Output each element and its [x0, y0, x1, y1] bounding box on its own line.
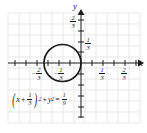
equation-inner-den: 3 — [27, 100, 32, 107]
equation-var-x: x — [16, 95, 20, 104]
x-tick-num-2-3: 2 — [121, 66, 127, 73]
y-tick-den-2-3: 3 — [70, 22, 76, 29]
x-tick-num-neg-1-3: 1 — [58, 66, 64, 73]
y-tick-num-2-3: 2 — [70, 14, 76, 21]
equation-inner-fraction: 1 3 — [27, 92, 32, 106]
y-tick-num-1-3: 1 — [85, 36, 91, 43]
equation-rhs-fraction: 1 9 — [62, 92, 67, 106]
x-tick-den-1-3: 3 — [99, 74, 105, 81]
equation-plus-2: + — [42, 95, 47, 104]
equation-y-exponent: 2 — [52, 96, 55, 102]
y-axis-label: y — [73, 2, 77, 11]
equation-plus-1: + — [21, 95, 26, 104]
equation-annotation: ( x + 1 3 ) 2 + y 2 = 1 9 — [11, 92, 68, 106]
x-tick-label-1-3: 1 3 — [99, 66, 105, 81]
x-tick-num-1-3: 1 — [99, 66, 105, 73]
equation-open-paren: ( — [12, 95, 15, 104]
equation-equals: = — [55, 95, 60, 104]
x-tick-label-neg-2-3: − 2 3 — [32, 66, 42, 81]
x-axis-label: x — [139, 59, 143, 68]
y-axis-arrowhead — [78, 9, 85, 15]
equation-rhs-den: 9 — [62, 100, 67, 107]
equation-close-paren: ) — [35, 95, 38, 104]
equation-paren-exponent: 2 — [39, 96, 42, 102]
x-tick-label-2-3: 2 3 — [121, 66, 127, 81]
figure-canvas: y x 2 3 1 3 − 2 3 − 1 3 — [0, 0, 147, 133]
x-tick-den-neg-1-3: 3 — [58, 74, 64, 81]
x-tick-num-neg-2-3: 2 — [36, 66, 42, 73]
y-tick-label-2-3: 2 3 — [70, 14, 76, 29]
y-tick-den-1-3: 3 — [85, 44, 91, 51]
y-tick-label-1-3: 1 3 — [85, 36, 91, 51]
x-tick-label-neg-1-3: − 1 3 — [54, 66, 64, 81]
x-tick-den-2-3: 3 — [121, 74, 127, 81]
x-tick-den-neg-2-3: 3 — [36, 74, 42, 81]
